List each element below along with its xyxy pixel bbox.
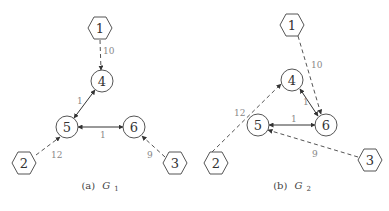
caption-symbol: G: [294, 180, 302, 191]
edge-label-5-6: 1: [100, 130, 106, 140]
node-label-4: 4: [288, 73, 296, 88]
caption-g2: (b) G 2: [273, 175, 311, 193]
edge-label-4-6: 1: [303, 97, 309, 107]
edge-label-3-6: 9: [147, 150, 153, 160]
edge-3-6: [142, 136, 165, 157]
node-label-2: 2: [20, 156, 28, 171]
node-label-6: 6: [322, 118, 330, 133]
edge-label-1-6: 10: [311, 60, 323, 70]
figure-canvas: 10 1 1 12 9 1 4 5 6 2 3 (a) G 1 10: [0, 0, 389, 211]
edge-label-2-4: 12: [234, 108, 245, 118]
caption-subscript: 2: [306, 185, 310, 193]
node-label-4: 4: [98, 74, 106, 89]
node-label-5: 5: [254, 118, 262, 133]
node-label-1: 1: [288, 18, 296, 33]
edge-label-2-5: 12: [51, 150, 62, 160]
edge-label-3-5: 9: [312, 149, 318, 159]
edge-2-4: [212, 84, 281, 152]
caption-symbol: G: [102, 180, 110, 191]
node-label-3: 3: [366, 153, 374, 168]
caption-prefix: (b): [273, 180, 287, 191]
edge-label-5-6: 1: [291, 114, 297, 124]
node-label-5: 5: [63, 120, 71, 135]
node-label-6: 6: [130, 120, 138, 135]
caption-prefix: (a): [81, 180, 95, 191]
edge-1-4: [100, 40, 101, 70]
caption-subscript: 1: [114, 185, 118, 193]
graph-g2: 10 1 1 12 9 1 4 5 6 2 3 (b) G 2: [204, 14, 382, 193]
caption-g1: (a) G 1: [81, 175, 118, 193]
graph-g1: 10 1 1 12 9 1 4 5 6 2 3 (a) G 1: [12, 17, 187, 193]
node-label-2: 2: [212, 156, 220, 171]
node-label-1: 1: [96, 21, 104, 36]
edge-label-1-4: 10: [103, 46, 115, 56]
node-label-3: 3: [171, 156, 179, 171]
edge-label-4-5: 1: [77, 96, 83, 106]
